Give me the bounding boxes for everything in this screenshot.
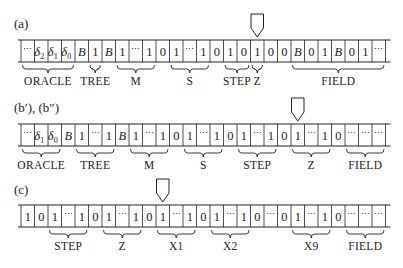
cell-symbol: ⋯ <box>347 209 356 219</box>
field-label: S <box>200 159 207 171</box>
cell-symbol: 0 <box>281 210 287 224</box>
cell-symbol: ⋯ <box>253 128 262 138</box>
tape-cell: ⋯ <box>359 124 370 146</box>
tape-cell: ⋯ <box>345 124 356 146</box>
tape-cell: 1 <box>75 205 85 227</box>
field-label: X1 <box>169 240 184 252</box>
field-brace-z: Z <box>293 149 331 171</box>
cell-symbol: 1 <box>362 45 368 59</box>
tape-cell: 1 <box>183 124 193 146</box>
cell-symbol: 0 <box>281 45 287 59</box>
tape-cell: 1 <box>210 205 220 227</box>
row-label: (c) <box>14 182 28 197</box>
tape-cell: 1 <box>129 124 139 146</box>
tape-cell: B <box>291 40 302 62</box>
cell-symbol: 0 <box>92 210 98 224</box>
cell-symbol: ⋯ <box>361 128 370 138</box>
field-brace-m: M <box>131 149 169 171</box>
cell-symbol: ⋯ <box>374 209 383 219</box>
cell-symbol: 0 <box>214 45 220 59</box>
turing-tape-diagram: (a)⋯δ2δ1δ0B1B1⋯101⋯1010100B01B01⋯ORACLET… <box>0 0 403 268</box>
tape-cell: 1 <box>210 124 220 146</box>
cell-symbol: 1 <box>227 45 233 59</box>
cell-symbol: 1 <box>160 129 166 143</box>
field-brace-step: STEP <box>239 149 277 171</box>
tape-cell: 0 <box>345 40 355 62</box>
curly-brace-icon <box>293 65 385 73</box>
tape-cell: 1 <box>318 205 328 227</box>
tape-cell: ⋯ <box>143 124 154 146</box>
curly-brace-icon <box>293 149 331 157</box>
tape-cell: 1 <box>156 124 166 146</box>
cell-symbol: ⋯ <box>64 209 73 219</box>
tape-cell: δ1 <box>48 40 58 62</box>
field-label: ORACLE <box>24 75 72 87</box>
cell-symbol: 1 <box>241 210 247 224</box>
cell-symbol: 1 <box>79 129 85 143</box>
cell-symbol: 1 <box>52 210 58 224</box>
tape-cell: 1 <box>197 40 207 62</box>
curly-brace-icon <box>185 149 223 157</box>
tape-cell: ⋯ <box>305 124 316 146</box>
tape-cell: ⋯ <box>372 124 383 146</box>
tape-cell: 1 <box>21 205 31 227</box>
field-label: STEP <box>243 159 271 171</box>
cell-symbol: ⋯ <box>361 209 370 219</box>
curly-brace-icon <box>158 230 196 238</box>
tape-diagram-canvas: (a)⋯δ2δ1δ0B1B1⋯101⋯1010100B01B01⋯ORACLET… <box>0 0 403 268</box>
tape-row-c: (c)101⋯101⋯101⋯101⋯10⋯01⋯10⋯⋯⋯STEPZX1X2X… <box>14 179 391 252</box>
tape-cell: ⋯ <box>62 205 73 227</box>
field-label: TREE <box>80 75 110 87</box>
cell-symbol: 1 <box>92 45 98 59</box>
curly-brace-icon <box>90 65 101 73</box>
cell-symbol: B <box>118 129 126 143</box>
tape-cell: 1 <box>251 40 261 62</box>
cell-symbol: 0 <box>146 210 152 224</box>
cell-symbol: ⋯ <box>23 128 32 138</box>
cell-symbol: 1 <box>241 129 247 143</box>
cell-symbol: 1 <box>200 45 206 59</box>
tape-cell: 1 <box>291 205 301 227</box>
cell-symbol: ⋯ <box>185 44 194 54</box>
tape-cell: ⋯ <box>264 205 275 227</box>
cell-symbol: 0 <box>254 210 260 224</box>
tape-head-pointer-icon <box>292 98 305 121</box>
tape-cell: 0 <box>305 40 315 62</box>
tape-cell: ⋯ <box>224 205 235 227</box>
cell-symbol: 0 <box>227 129 233 143</box>
tape-row-a: (a)⋯δ2δ1δ0B1B1⋯101⋯1010100B01B01⋯ORACLET… <box>14 14 391 87</box>
tape-cell: δ0 <box>48 124 58 146</box>
tape-cell: 1 <box>318 40 328 62</box>
cell-symbol: B <box>64 129 72 143</box>
tape-cell: 0 <box>197 205 207 227</box>
cell-symbol: 0 <box>281 129 287 143</box>
cell-symbol: δ0 <box>61 45 71 61</box>
tape-cell: B <box>62 124 73 146</box>
tape-cell: 1 <box>102 124 112 146</box>
cell-symbol: 1 <box>322 129 328 143</box>
curly-brace-icon <box>347 149 385 157</box>
field-brace-x1: X1 <box>158 230 196 252</box>
cell-symbol: B <box>334 45 342 59</box>
tape-cell: 0 <box>237 40 247 62</box>
field-brace-tree: TREE <box>80 65 110 87</box>
cell-symbol: ⋯ <box>307 128 316 138</box>
field-brace-x9: X9 <box>293 230 331 252</box>
cell-symbol: 1 <box>322 210 328 224</box>
tape-cell: 1 <box>183 205 193 227</box>
cell-symbol: ⋯ <box>266 209 275 219</box>
cell-symbol: B <box>78 45 86 59</box>
field-brace-m: M <box>117 65 155 87</box>
field-brace-field: FIELD <box>347 230 385 252</box>
cell-symbol: ⋯ <box>374 128 383 138</box>
field-label: M <box>144 159 155 171</box>
cell-symbol: ⋯ <box>145 128 154 138</box>
cell-symbol: δ1 <box>34 129 44 145</box>
cell-symbol: δ1 <box>48 45 58 61</box>
field-label: M <box>130 75 141 87</box>
row-label: (b′), (b″) <box>14 100 59 115</box>
field-brace-oracle: ORACLE <box>17 149 65 171</box>
tape-cell: 0 <box>278 205 288 227</box>
tape-cell: δ0 <box>61 40 71 62</box>
curly-brace-icon <box>212 230 250 238</box>
